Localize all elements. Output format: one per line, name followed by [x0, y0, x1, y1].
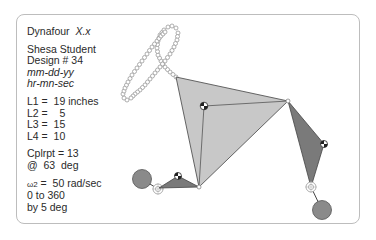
coupler-cg-icon: [200, 102, 208, 110]
mechanism-diagram: [0, 0, 376, 240]
left-ground-pivot-icon: [152, 183, 164, 195]
right-rocker-cg-icon: [321, 141, 328, 148]
curve-point: [170, 24, 174, 28]
curve-point: [129, 96, 133, 100]
left-counterweight: [133, 170, 152, 189]
coupler-link: [176, 77, 288, 187]
coupler-curve: [121, 24, 180, 102]
curve-point: [174, 26, 178, 30]
right-ground-pivot-icon: [305, 181, 317, 193]
joint-crank-coupler: [197, 185, 201, 189]
curve-point: [163, 30, 167, 34]
curve-point: [166, 25, 170, 29]
right-counterweight: [313, 201, 332, 220]
right-rocker-link: [288, 101, 324, 187]
curve-point: [122, 96, 126, 100]
left-crank-cg-icon: [175, 173, 182, 180]
joint-coupler-rocker: [286, 99, 290, 103]
